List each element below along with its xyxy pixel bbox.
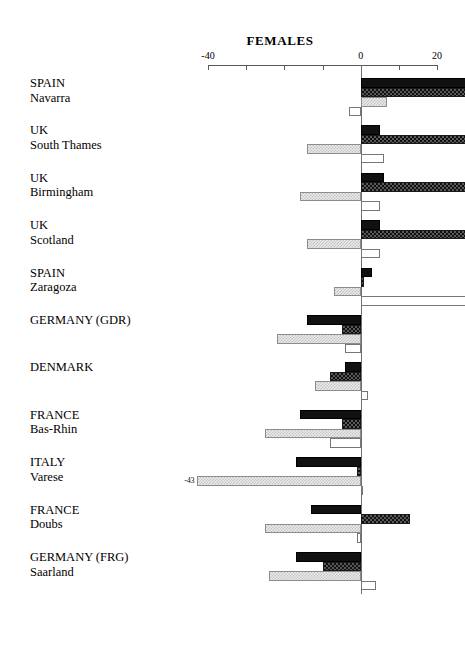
bar-series-4-group-4 (361, 296, 465, 306)
category-label-line1: FRANCE (30, 408, 79, 422)
bar-series-3-group-5 (277, 334, 361, 344)
category-label-line2: Scotland (30, 233, 74, 248)
category-label-line1: UK (30, 218, 48, 232)
bar-series-1-group-3 (361, 220, 380, 230)
category-label-line1: GERMANY (GDR) (30, 313, 131, 327)
category-label-1: UKSouth Thames (30, 123, 102, 152)
category-label-7: FRANCEBas-Rhin (30, 408, 79, 437)
bar-series-3-group-8 (197, 476, 361, 486)
bar-series-2-group-7 (342, 419, 361, 429)
category-label-line1: SPAIN (30, 76, 65, 90)
category-label-line2: Varese (30, 470, 65, 485)
bar-series-2-group-5 (342, 325, 361, 335)
bar-series-1-group-7 (300, 410, 361, 420)
axis-tick--30 (246, 65, 247, 70)
bar-series-3-group-0 (361, 97, 388, 107)
axis-tick-label-20: 20 (432, 50, 442, 61)
females-bar-chart: FEMALES -40020 SPAINNavarraUKSouth Thame… (0, 0, 465, 650)
bar-series-2-group-2 (361, 182, 465, 192)
category-label-8: ITALYVarese (30, 455, 65, 484)
bar-series-4-group-5 (345, 344, 360, 354)
category-label-line2: South Thames (30, 138, 102, 153)
bar-series-3-group-9 (265, 524, 360, 534)
category-label-line2: Bas-Rhin (30, 422, 79, 437)
bar-series-1-group-10 (296, 552, 361, 562)
category-label-line2: Saarland (30, 565, 129, 580)
category-label-line1: GERMANY (FRG) (30, 550, 129, 564)
bar-series-3-group-1 (307, 144, 360, 154)
category-label-line2: Navarra (30, 91, 70, 106)
bar-series-4-group-8 (361, 486, 363, 496)
bar-series-2-group-6 (330, 372, 361, 382)
bar-series-4-group-7 (330, 438, 361, 448)
bar-series-1-group-5 (307, 315, 360, 325)
category-label-0: SPAINNavarra (30, 76, 70, 105)
category-label-line1: UK (30, 123, 48, 137)
category-label-10: GERMANY (FRG)Saarland (30, 550, 129, 579)
value-label-8-series-3: -43 (185, 477, 195, 485)
bar-series-4-group-6 (361, 391, 369, 401)
bar-series-1-group-6 (345, 362, 360, 372)
bar-series-1-group-2 (361, 173, 384, 183)
category-label-line1: UK (30, 171, 48, 185)
category-label-6: DENMARK (30, 360, 93, 375)
category-label-line1: FRANCE (30, 503, 79, 517)
axis-tick--40 (208, 65, 209, 70)
bar-series-2-group-10 (323, 562, 361, 572)
bar-series-2-group-0 (361, 88, 465, 98)
bar-series-3-group-6 (315, 381, 361, 391)
axis-tick-label--40: -40 (201, 50, 214, 61)
bar-series-3-group-3 (307, 239, 360, 249)
bar-series-4-group-9 (357, 533, 361, 543)
axis-tick-10 (399, 65, 400, 70)
bar-series-2-group-9 (361, 514, 411, 524)
category-label-line2: Birmingham (30, 185, 93, 200)
axis-tick--10 (323, 65, 324, 70)
category-label-line1: SPAIN (30, 266, 65, 280)
category-label-line2: Zaragoza (30, 280, 77, 295)
category-label-line1: DENMARK (30, 360, 93, 374)
bar-series-2-group-1 (361, 135, 465, 145)
bar-series-4-group-1 (361, 154, 384, 164)
category-label-2: UKBirmingham (30, 171, 93, 200)
bar-series-4-group-0 (349, 107, 360, 117)
category-label-9: FRANCEDoubs (30, 503, 79, 532)
axis-tick-20 (437, 65, 438, 70)
category-label-5: GERMANY (GDR) (30, 313, 131, 328)
bar-series-1-group-4 (361, 268, 372, 278)
bar-series-1-group-8 (296, 457, 361, 467)
bar-series-2-group-4 (361, 277, 365, 287)
bar-series-3-group-4 (334, 287, 361, 297)
bar-series-2-group-3 (361, 230, 465, 240)
axis-tick-label-0: 0 (358, 50, 363, 61)
axis-tick--20 (284, 65, 285, 70)
category-label-4: SPAINZaragoza (30, 266, 77, 295)
bar-series-2-group-8 (357, 467, 361, 477)
bar-series-1-group-9 (311, 505, 361, 515)
category-label-3: UKScotland (30, 218, 74, 247)
bar-series-4-group-2 (361, 201, 380, 211)
bar-series-4-group-3 (361, 249, 380, 259)
bar-series-3-group-10 (269, 571, 361, 581)
bar-series-3-group-7 (265, 429, 360, 439)
category-label-line2: Doubs (30, 517, 79, 532)
bar-series-1-group-0 (361, 78, 465, 88)
bar-series-4-group-10 (361, 581, 376, 591)
category-label-line1: ITALY (30, 455, 65, 469)
bar-series-3-group-2 (300, 192, 361, 202)
bar-series-1-group-1 (361, 125, 380, 135)
